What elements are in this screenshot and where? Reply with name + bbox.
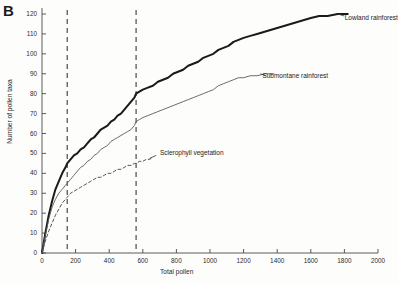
y-axis-tick-label: 90 <box>15 70 37 77</box>
y-axis-tick-label: 70 <box>15 110 37 117</box>
y-axis-tick-label: 0 <box>15 249 37 256</box>
y-axis-tick-label: 120 <box>15 10 37 17</box>
series-line <box>42 74 274 253</box>
x-axis-tick-label: 1000 <box>197 257 223 264</box>
x-axis-tick-label: 2000 <box>365 257 391 264</box>
y-axis-tick-label: 80 <box>15 90 37 97</box>
series-line <box>42 14 348 253</box>
series-annotation-label: Submontane rainforest <box>262 72 328 79</box>
y-axis-tick-label: 20 <box>15 209 37 216</box>
series-annotation-label: Sclerophyll vegetation <box>160 149 224 156</box>
x-axis-tick-label: 1200 <box>231 257 257 264</box>
y-axis-tick-label: 60 <box>15 130 37 137</box>
x-axis-tick-label: 200 <box>63 257 89 264</box>
y-axis-tick-label: 30 <box>15 189 37 196</box>
x-axis-tick-label: 400 <box>96 257 122 264</box>
x-axis-tick-label: 1800 <box>331 257 357 264</box>
axis-lines <box>42 8 378 253</box>
x-axis-tick-label: 600 <box>130 257 156 264</box>
x-axis-tick-label: 1600 <box>298 257 324 264</box>
y-axis-tick-label: 50 <box>15 149 37 156</box>
annotation-leader-line <box>150 155 157 158</box>
y-axis-tick-label: 100 <box>15 50 37 57</box>
y-axis-tick-label: 110 <box>15 30 37 37</box>
x-axis-tick-label: 800 <box>163 257 189 264</box>
x-axis-tick-label: 1400 <box>264 257 290 264</box>
series-annotation-label: Lowland rainforest <box>345 14 398 21</box>
y-axis-tick-label: 40 <box>15 169 37 176</box>
y-axis-tick-label: 10 <box>15 229 37 236</box>
x-axis-tick-label: 0 <box>29 257 55 264</box>
